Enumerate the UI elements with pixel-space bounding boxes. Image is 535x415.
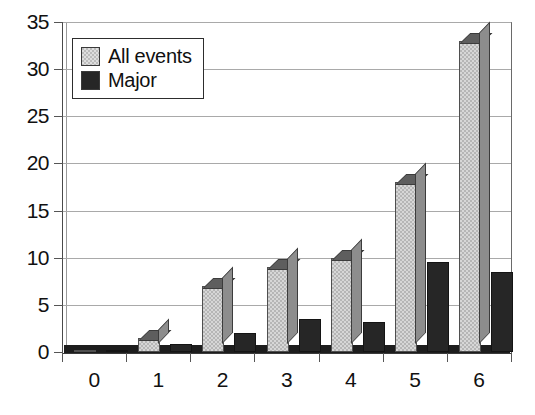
gridline bbox=[62, 163, 511, 164]
legend-label-major: Major bbox=[108, 70, 157, 90]
bar-all-events bbox=[138, 338, 160, 352]
y-axis-tick bbox=[54, 69, 63, 70]
bar-side-face bbox=[415, 163, 426, 344]
bar-all-events bbox=[331, 258, 353, 352]
legend-label-all-events: All events bbox=[108, 46, 192, 66]
legend-swatch-all-events bbox=[81, 47, 100, 66]
chart-legend: All events Major bbox=[72, 38, 204, 99]
x-axis-tick bbox=[383, 353, 384, 362]
y-axis-tick bbox=[54, 22, 63, 23]
y-axis-tick bbox=[54, 163, 63, 164]
bar-chart: 05101520253035 0123456 All events Major bbox=[0, 0, 535, 415]
gridline bbox=[62, 116, 511, 117]
y-axis-label: 25 bbox=[0, 105, 49, 126]
bar-side-face bbox=[479, 21, 490, 344]
y-axis-label: 5 bbox=[0, 294, 49, 315]
x-axis-tick bbox=[319, 353, 320, 362]
bar-side-face bbox=[222, 267, 233, 344]
y-axis-label: 10 bbox=[0, 247, 49, 268]
y-axis-label: 35 bbox=[0, 11, 49, 32]
x-axis-label: 3 bbox=[264, 369, 310, 390]
x-axis-tick bbox=[190, 353, 191, 362]
y-axis-label: 20 bbox=[0, 152, 49, 173]
x-axis-label: 6 bbox=[456, 369, 502, 390]
x-axis-label: 0 bbox=[71, 369, 117, 390]
y-axis-tick bbox=[54, 258, 63, 259]
x-axis-tick bbox=[62, 353, 63, 362]
bar-all-events bbox=[74, 350, 96, 352]
y-axis-inner-rule bbox=[66, 22, 67, 353]
y-axis-tick bbox=[54, 305, 63, 306]
x-axis-label: 4 bbox=[328, 369, 374, 390]
bar-all-events bbox=[459, 41, 481, 352]
bar-major bbox=[170, 344, 192, 352]
legend-item-major: Major bbox=[81, 68, 192, 92]
bar-major bbox=[491, 272, 513, 352]
x-axis-tick bbox=[447, 353, 448, 362]
y-axis-label: 30 bbox=[0, 58, 49, 79]
bar-major bbox=[427, 262, 449, 352]
bar-major bbox=[299, 319, 321, 352]
y-axis-label: 0 bbox=[0, 341, 49, 362]
y-axis-tick bbox=[54, 211, 63, 212]
y-axis-tick bbox=[54, 116, 63, 117]
x-axis-tick bbox=[511, 353, 512, 362]
x-axis-label: 5 bbox=[392, 369, 438, 390]
bar-side-face bbox=[351, 238, 362, 344]
y-axis-label: 15 bbox=[0, 200, 49, 221]
legend-swatch-major bbox=[81, 71, 100, 90]
bar-major bbox=[106, 350, 128, 352]
bar-all-events bbox=[395, 182, 417, 352]
gridline bbox=[62, 211, 511, 212]
x-axis-label: 2 bbox=[199, 369, 245, 390]
bar-side-face bbox=[287, 248, 298, 344]
legend-item-all-events: All events bbox=[81, 44, 192, 68]
x-axis-tick bbox=[126, 353, 127, 362]
gridline bbox=[62, 22, 511, 23]
x-axis-label: 1 bbox=[135, 369, 181, 390]
x-axis-tick bbox=[254, 353, 255, 362]
bar-major bbox=[234, 333, 256, 352]
bar-all-events bbox=[267, 267, 289, 352]
bar-all-events bbox=[202, 286, 224, 352]
bar-major bbox=[363, 322, 385, 352]
